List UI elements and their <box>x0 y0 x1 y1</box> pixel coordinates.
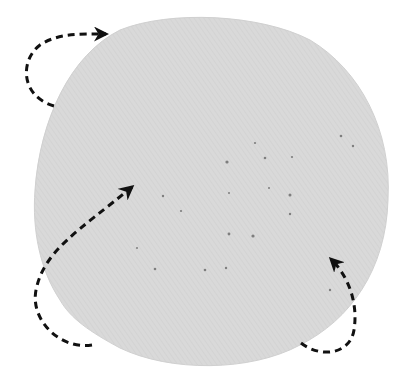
disc-figure <box>0 0 394 383</box>
annotated-disc-image: Circular grey textured disc (fabric/pape… <box>0 0 394 383</box>
textured-disc <box>34 17 388 365</box>
